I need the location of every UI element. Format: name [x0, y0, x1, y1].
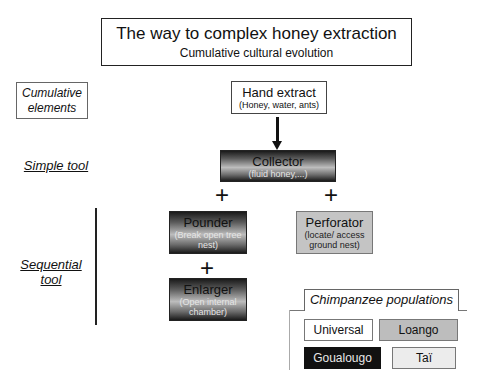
down-arrow-shaft [276, 117, 279, 143]
node-pounder-title: Pounder [170, 215, 246, 230]
sequential-tool-label: Sequential tool [16, 257, 86, 287]
node-pounder: Pounder (Break open tree nest) [169, 211, 247, 254]
diagram-title: The way to complex honey extraction [102, 24, 411, 44]
cumulative-elements-line2: elements [17, 101, 87, 116]
down-arrow-icon [272, 141, 282, 150]
legend-item-goualougo: Goualougo [304, 347, 381, 369]
legend-title: Chimpanzee populations [304, 289, 459, 311]
sequential-bracket-line [95, 208, 97, 325]
node-hand-extract-sub: (Honey, water, ants) [232, 100, 326, 110]
simple-tool-label: Simple tool [18, 158, 94, 173]
node-collector-title: Collector [221, 154, 335, 169]
node-pounder-sub-line1: (Break open tree [170, 230, 246, 240]
cumulative-elements-label-box: Cumulative elements [16, 82, 88, 119]
node-perforator: Perforator (locate/ access ground nest) [296, 211, 373, 254]
node-hand-extract-title: Hand extract [232, 85, 326, 100]
node-perforator-title: Perforator [297, 215, 372, 230]
sequential-tool-line2: tool [16, 272, 86, 287]
node-enlarger-title: Enlarger [170, 282, 246, 297]
legend-frame-left [289, 310, 290, 370]
node-collector-sub: (fluid honey,...) [221, 169, 335, 179]
plus-icon-enlarger: + [195, 256, 219, 280]
plus-icon-pounder: + [210, 183, 234, 207]
node-enlarger-sub-line2: chamber) [170, 307, 246, 317]
node-perforator-sub-line2: ground nest) [297, 240, 372, 250]
plus-icon-perforator: + [319, 183, 343, 207]
node-enlarger-sub-line1: (Open internal [170, 297, 246, 307]
node-pounder-sub-line2: nest) [170, 240, 246, 250]
cumulative-elements-line1: Cumulative [17, 86, 87, 101]
legend-item-tai: Taï [392, 347, 456, 369]
node-collector: Collector (fluid honey,...) [220, 150, 336, 182]
node-enlarger: Enlarger (Open internal chamber) [169, 278, 247, 321]
legend-item-universal: Universal [304, 319, 373, 341]
legend-item-loango: Loango [379, 319, 458, 341]
diagram-subtitle: Cumulative cultural evolution [102, 45, 411, 61]
diagram-title-box: The way to complex honey extraction Cumu… [101, 18, 412, 66]
node-hand-extract: Hand extract (Honey, water, ants) [231, 81, 327, 114]
node-perforator-sub-line1: (locate/ access [297, 230, 372, 240]
sequential-tool-line1: Sequential [16, 257, 86, 272]
